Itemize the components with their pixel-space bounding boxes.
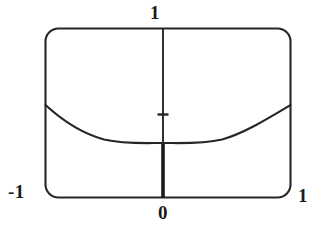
x-axis-max-label: 1 xyxy=(298,186,308,205)
x-axis-min-label: -1 xyxy=(8,182,24,201)
plot-frame-border xyxy=(46,29,291,198)
x-axis-origin-label: 0 xyxy=(158,203,168,222)
figure-container: 1 0 -1 1 xyxy=(0,0,322,241)
y-axis-max-label: 1 xyxy=(150,3,160,22)
